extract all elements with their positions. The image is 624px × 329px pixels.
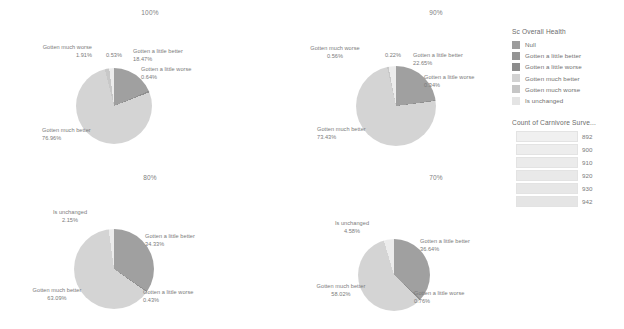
count-legend-row-910[interactable]: 910 (516, 156, 596, 169)
pie-label-gotten-a-little-worse-70: Gotten a little worse 0.76% (414, 290, 506, 305)
pie-label-is-unchanged-80: Is unchanged 2.15% (34, 209, 106, 224)
count-legend: Count of Carnivore Surve... 892 900 910 … (512, 119, 596, 208)
count-legend-row-892[interactable]: 892 (516, 130, 596, 143)
legend-item-gotten-much-worse[interactable]: Gotten much worse (512, 84, 582, 95)
count-legend-value-920: 920 (582, 172, 592, 179)
legend-item-gotten-much-better[interactable]: Gotten much better (512, 73, 582, 84)
pie-label-is-unchanged-90: 0.22% (378, 52, 408, 60)
legend-swatch-gotten-a-little-worse (512, 63, 520, 71)
pie-label-gotten-a-little-better-70: Gotten a little better 36.64% (420, 238, 512, 253)
pie-label-gotten-a-little-better-80: Gotten a little better 34.33% (145, 233, 237, 248)
legend-swatch-gotten-a-little-better (512, 52, 520, 60)
count-legend-value-900: 900 (582, 146, 592, 153)
pie-label-gotten-a-little-better-100: Gotten a little better 18.47% (133, 48, 225, 63)
pie-chart-title-100: 100% (0, 9, 300, 16)
pie-label-gotten-much-better-100: Gotten much better 76.96% (42, 127, 134, 142)
legend-label-gotten-a-little-better: Gotten a little better (525, 52, 581, 59)
count-legend-title: Count of Carnivore Surve... (512, 119, 596, 126)
pie-label-gotten-a-little-worse-80: Gotten a little worse 0.43% (143, 289, 235, 304)
pie-label-gotten-a-little-better-90: Gotten a little better 22.65% (413, 52, 505, 67)
count-legend-items: 892 900 910 920 930 942 (516, 130, 596, 208)
count-legend-value-910: 910 (582, 159, 592, 166)
color-legend: Sc Overall Health Null Gotten a little b… (512, 28, 582, 106)
count-legend-bar-910 (516, 157, 578, 168)
legend-swatch-is-unchanged (512, 97, 520, 105)
pie-label-gotten-much-better-70: Gotten much better 58.02% (298, 283, 384, 298)
legend-swatch-null (512, 41, 520, 49)
pie-label-gotten-a-little-worse-90: Gotten a little worse 0.34% (424, 74, 516, 89)
count-legend-value-892: 892 (582, 133, 592, 140)
color-legend-items: Null Gotten a little better Gotten a lit… (512, 39, 582, 106)
legend-swatch-gotten-much-worse (512, 85, 520, 93)
pie-chart-title-80: 80% (0, 174, 300, 181)
pie-chart-title-90: 90% (286, 9, 586, 16)
legend-item-is-unchanged[interactable]: Is unchanged (512, 95, 582, 106)
pie-chart-panel-80: 80% Is unchanged 2.15% Gotten a little b… (0, 165, 300, 329)
count-legend-bar-920 (516, 170, 578, 181)
legend-item-gotten-a-little-better[interactable]: Gotten a little better (512, 50, 582, 61)
pie-label-is-unchanged-70: Is unchanged 4.58% (316, 220, 388, 235)
legend-label-gotten-much-worse: Gotten much worse (525, 86, 580, 93)
count-legend-row-930[interactable]: 930 (516, 182, 596, 195)
pie-label-gotten-much-worse-90: Gotten much worse 0.56% (292, 45, 378, 60)
count-legend-row-920[interactable]: 920 (516, 169, 596, 182)
pie-label-gotten-much-better-90: Gotten much better 73.43% (317, 126, 409, 141)
legend-item-null[interactable]: Null (512, 39, 582, 50)
legend-label-gotten-a-little-worse: Gotten a little worse (525, 63, 582, 70)
pie-label-is-unchanged-100: 0.53% (99, 52, 129, 60)
legend-item-gotten-a-little-worse[interactable]: Gotten a little worse (512, 61, 582, 72)
count-legend-bar-892 (516, 131, 578, 142)
count-legend-row-942[interactable]: 942 (516, 195, 596, 208)
count-legend-value-930: 930 (582, 185, 592, 192)
count-legend-bar-930 (516, 183, 578, 194)
count-legend-bar-942 (516, 196, 578, 207)
pie-label-gotten-much-worse-100: Gotten much worse 1.91% (6, 44, 92, 59)
legend-swatch-gotten-much-better (512, 74, 520, 82)
color-legend-title: Sc Overall Health (512, 28, 582, 35)
count-legend-row-900[interactable]: 900 (516, 143, 596, 156)
count-legend-value-942: 942 (582, 198, 592, 205)
pie-label-gotten-much-better-80: Gotten much better 63.09% (14, 287, 100, 302)
legend-label-gotten-much-better: Gotten much better (525, 75, 580, 82)
count-legend-bar-900 (516, 144, 578, 155)
pie-chart-panel-100: 100% Gotten much worse 1.91% 0.53% Gotte… (0, 0, 300, 164)
pie-label-gotten-a-little-worse-100: Gotten a little worse 0.64% (141, 66, 233, 81)
legend-label-null: Null (525, 41, 536, 48)
legend-label-is-unchanged: Is unchanged (525, 97, 563, 104)
